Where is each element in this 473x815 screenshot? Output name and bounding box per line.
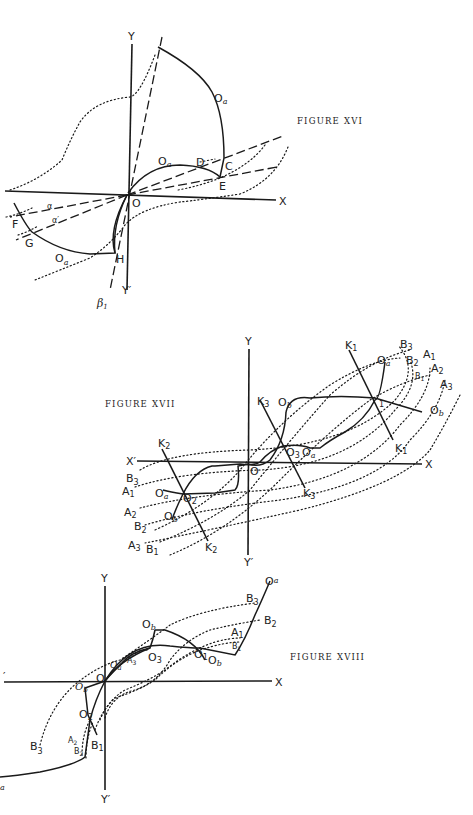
label-oa-bottom: a [0,783,5,792]
dotted-curve-a1 [100,638,240,720]
label-a2-right: A2 [431,362,444,376]
origin-label: O [132,197,141,210]
label-oa-top: Oa [377,354,391,368]
label-ob-right: Ob [430,404,444,418]
label-k1-bottom: K1 [395,442,407,456]
y-prime-label: Y′ [121,284,132,297]
label-o2: O2 [79,708,93,722]
label-d: D [196,156,204,169]
k3-line [260,400,305,488]
label-o3: O3 [286,446,300,460]
label-b2-right: B2 [264,614,277,629]
label-h: H [116,253,124,266]
label-b1-left: B1 [91,739,104,753]
label-g: G [25,237,34,250]
y-label: Y [100,572,108,585]
y-label: Y [127,30,135,43]
label-a2-left: A2 [68,736,77,746]
label-f: F [12,218,18,231]
dotted-curve-upper [10,55,155,190]
label-b3-left: B3 [30,740,43,756]
label-b1-right: B1 [232,642,242,652]
label-ob-top: Ob [142,618,156,632]
y-label: Y [244,335,252,348]
label-b1-left: B1 [146,543,159,557]
label-k3-bottom: K3 [303,487,315,501]
x-axis [4,681,272,682]
diagram-canvas: Y X O Y′ Oa Oa Oa D C E F G H α α′ β1 [0,0,473,815]
dashed-line-alpha [10,195,127,217]
dashed-line-oe [127,167,277,195]
label-b3-right: B3 [246,592,259,607]
figure-xvi: Y X O Y′ Oa Oa Oa D C E F G H α α′ β1 [5,30,363,311]
label-b3-right: B3 [400,338,413,352]
label-e: E [219,180,226,193]
label-oa-bottom: Oa [55,252,69,267]
label-a1-right: A1 [231,626,244,640]
label-c: C [225,160,233,173]
label-oa-top: Oa [214,92,228,106]
curve-ob-upper [286,397,422,413]
label-b2-left: B2 [134,520,147,535]
x-prime-label: X′ [126,455,137,468]
x-label: X [425,458,433,471]
label-b2-right: B2 [406,354,419,368]
label-oa-top: Oa [265,575,279,588]
figure-caption-xvi: FIGURE XVI [297,116,363,126]
label-a1-right: A1 [423,348,436,362]
x-prime-label: ′ [3,670,6,683]
figure-xviii: Y X ′ Y′ O Oa Ob Ob Ob Oa a O1 O2 O3 B3 … [0,572,365,806]
label-oa-left: Oa [155,487,169,501]
label-o1: 1 [379,400,384,409]
label-ob-left: Ob [164,510,178,524]
label-a1-left: A1 [122,485,135,499]
label-beta: β1 [96,297,108,311]
label-ob-left: Ob [75,681,88,694]
label-b1-right: B1 [415,372,425,382]
label-alpha: α [47,202,52,211]
label-o1: O1 [194,648,208,662]
label-o3: O3 [148,651,162,665]
label-ob-right: Ob [208,654,222,668]
figure-caption-xvii: FIGURE XVII [105,399,176,409]
label-k2-bottom: K2 [205,541,217,555]
y-axis [248,349,249,555]
figure-xvii: Y X X′ Y′ O K1 K1 K2 K2 K3 K3 Ob Ob Ob [105,335,460,569]
dotted-curve-a1 [135,360,413,487]
dashed-line-oc [127,136,283,195]
dotted-curve-b3 [140,345,408,470]
dotted-curve-a2 [140,368,430,508]
curve-oa-top [158,47,224,177]
label-alpha-prime: α′ [52,216,59,225]
curve-loop-h [115,195,128,253]
dotted-curve-b1 [95,642,240,730]
dotted-curve-a3 [145,395,460,543]
x-label: X [279,195,287,208]
origin-label: O [250,465,259,478]
label-ob-mid: Ob [278,396,292,410]
y-prime-label: Y′ [100,793,111,806]
label-a2-left: A2 [124,506,137,520]
label-k2-top: K2 [158,437,170,451]
y-axis [127,44,132,290]
label-k1-top: K1 [345,339,357,353]
x-axis [137,461,422,464]
figure-caption-xviii: FIGURE XVIII [290,652,365,662]
label-k3-top: K3 [257,395,269,409]
y-prime-label: Y′ [243,556,254,569]
label-a3-right: A3 [440,378,453,392]
label-b2-left: B2 [74,747,84,757]
label-a3-left: A3 [128,539,141,553]
label-a3: A3 [127,656,136,666]
label-oa-mid: Oa [158,155,172,169]
x-label: X [275,676,283,689]
